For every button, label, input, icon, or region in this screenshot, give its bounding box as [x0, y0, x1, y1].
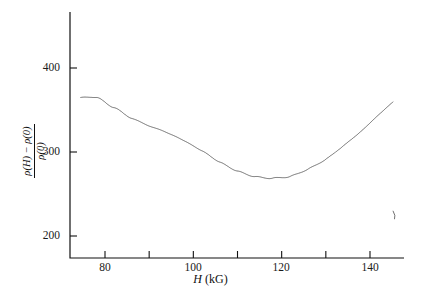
axis-ticks	[70, 68, 370, 258]
y-axis-title-rotated: ρ(H) − ρ(0) ρ(0)	[12, 92, 56, 210]
x-axis-title: H (kG)	[0, 272, 421, 287]
x-axis-title-unit: (kG)	[205, 272, 228, 286]
y-axis-title-fraction: ρ(H) − ρ(0) ρ(0)	[21, 124, 48, 177]
y-axis-title: ρ(H) − ρ(0) ρ(0)	[12, 92, 56, 210]
figure-shubnikov-de-haas: 400 300 200 80 100 120 140 H (kG) ρ(H) −…	[0, 0, 421, 300]
y-tick-label-400: 400	[32, 61, 60, 73]
plot-canvas	[0, 0, 421, 300]
y-axis-title-denominator: ρ(0)	[35, 124, 47, 177]
axis-spines	[70, 12, 404, 258]
y-axis-title-numerator: ρ(H) − ρ(0)	[21, 124, 33, 177]
x-axis-title-symbol: H	[193, 272, 202, 286]
data-trace	[81, 97, 395, 219]
y-tick-label-200: 200	[32, 229, 60, 241]
